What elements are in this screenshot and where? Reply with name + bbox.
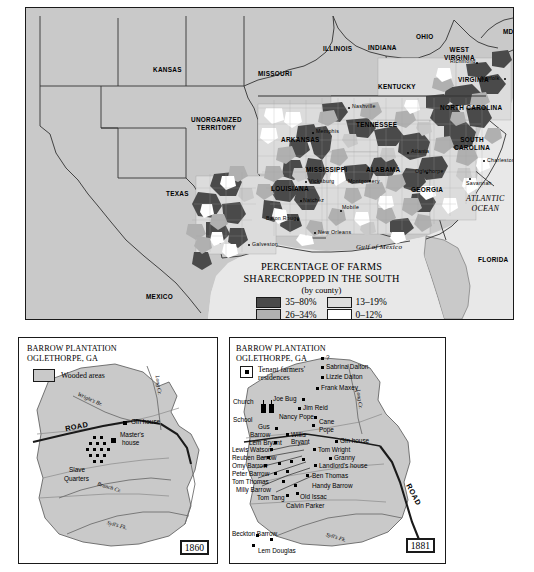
tenant-label: Sabrina Dalton xyxy=(326,363,368,370)
state-label-mexico: MEXICO xyxy=(146,293,173,300)
legend-subtitle: (by county) xyxy=(214,285,429,295)
legend-title-line2: SHARECROPPED IN THE SOUTH xyxy=(214,273,429,285)
legend-swatch-26-34 xyxy=(256,309,281,320)
state-label-north-carolina: NORTH CAROLINA xyxy=(440,104,502,112)
state-label-indiana: INDIANA xyxy=(368,44,397,51)
church-steeple-icon xyxy=(263,400,265,405)
legend-entry: 35–80% xyxy=(256,297,316,308)
legend-label-0-12: 0–12% xyxy=(356,310,383,320)
tenant-label: Granny xyxy=(334,454,355,461)
barrow-plantation-1881-panel: BARROW PLANTATION OGLETHORPE, GA Tenant … xyxy=(229,337,446,564)
city-label-mobile: Mobile xyxy=(342,204,359,210)
legend-label-26-34: 26–34% xyxy=(285,310,316,320)
state-label-tennessee: TENNESSEE xyxy=(356,121,397,128)
state-label-georgia: GEORGIA xyxy=(411,186,443,193)
state-label-kentucky: KENTUCKY xyxy=(378,83,416,90)
city-label-new-orleans: New Orleans xyxy=(318,229,351,235)
panel-1881-title-line2: OGLETHORPE, GA xyxy=(236,354,307,363)
city-label-savannah: Savannah xyxy=(466,180,492,186)
sharecropping-choropleth-map: KANSAS MISSOURI ILLINOIS INDIANA OHIO MD… xyxy=(25,7,514,320)
state-label-florida: FLORIDA xyxy=(478,256,509,263)
tenant-label: Lizzie Dalton xyxy=(326,373,363,380)
water-label-gulf-of-mexico: Gulf of Mexico xyxy=(356,243,402,251)
state-label-arkansas: ARKANSAS xyxy=(281,136,320,143)
state-label-south-carolina: SOUTH CAROLINA xyxy=(454,136,490,151)
panel-1860-wooded-legend: Wooded areas xyxy=(33,369,105,382)
tenant-label: Tom Wright xyxy=(318,446,350,453)
tenant-label: Omy Barrow xyxy=(232,462,268,469)
tenant-residence-label: Tenant farmers'residences xyxy=(258,366,305,383)
masters-house-marker-1860 xyxy=(111,438,116,443)
panel-1881-title-line1: BARROW PLANTATION xyxy=(236,344,326,353)
tenant-label: Gus xyxy=(258,423,270,430)
tenant-label: Beckton Barrow xyxy=(232,530,277,537)
historical-figure: KANSAS MISSOURI ILLINOIS INDIANA OHIO MD… xyxy=(0,0,534,572)
legend-column-right: 13–19% 0–12% xyxy=(327,297,387,320)
legend-swatch-35-80 xyxy=(256,297,281,308)
tenant-label: Tom Thomas xyxy=(232,478,269,485)
panel-1881-tenant-legend: Tenant farmers'residences xyxy=(240,366,305,383)
tenant-label: Lem Douglas xyxy=(258,547,296,554)
state-label-unorganized-territory: UNORGANIZED TERRITORY xyxy=(191,116,242,131)
tenant-label: Jim Reid xyxy=(303,404,328,411)
tenant-label: Ben Thomas xyxy=(312,472,348,479)
tenant-label: Bryant xyxy=(291,438,309,445)
legend-swatch-13-19 xyxy=(327,297,352,308)
tenant-label: Gin house xyxy=(340,437,369,444)
state-label-maryland: MD xyxy=(503,28,514,35)
tenant-label: Milly Barrow xyxy=(236,486,271,493)
school-label-1881: School xyxy=(233,416,253,423)
state-label-mississippi: MISSISSIPPI xyxy=(306,166,347,173)
state-label-texas: TEXAS xyxy=(166,190,189,197)
school-roof-icon xyxy=(271,400,273,405)
city-label-vicksburg: Vicksburg xyxy=(309,178,334,184)
legend-swatch-0-12 xyxy=(327,309,352,320)
legend-entry: 26–34% xyxy=(256,309,316,320)
legend-entry: 13–19% xyxy=(327,297,387,308)
legend-title-line1: PERCENTAGE OF FARMS xyxy=(214,261,429,273)
masters-house-label-line2: house xyxy=(122,439,139,446)
tenant-label: Calvin Parker xyxy=(286,502,324,509)
city-label-natchez: Natchez xyxy=(303,197,324,203)
city-label-charleston: Charleston xyxy=(487,157,514,163)
year-badge-1881: 1881 xyxy=(406,538,435,553)
tenant-label: Handy Barrow xyxy=(312,482,353,489)
tenant-label: Lem Bryant xyxy=(249,439,282,446)
map-legend: PERCENTAGE OF FARMS SHARECROPPED IN THE … xyxy=(214,261,429,320)
state-label-alabama: ALABAMA xyxy=(366,166,400,173)
panel-1860-title-line1: BARROW PLANTATION xyxy=(27,344,117,353)
year-badge-1860: 1860 xyxy=(180,540,209,555)
tenant-label: Old Issac xyxy=(300,493,327,500)
state-label-ohio: OHIO xyxy=(416,33,434,40)
tenant-label: Landlord's house xyxy=(319,462,367,469)
masters-house-label-line1: Master's xyxy=(120,431,144,438)
year-badge-1881-label: 1881 xyxy=(407,539,434,552)
tenant-label: Tom Tang xyxy=(257,494,285,501)
city-label-memphis: Memphis xyxy=(316,128,339,134)
city-label-richmond: Richmond xyxy=(450,58,476,64)
city-label-atlanta: Atlanta xyxy=(411,148,429,154)
tenant-label: Nancy Pope xyxy=(279,413,314,420)
slave-quarters-label-line2: Quarters xyxy=(64,475,89,482)
slave-quarters-label-line1: Slave xyxy=(69,466,85,473)
year-badge-1860-label: 1860 xyxy=(181,541,208,554)
wooded-areas-label: Wooded areas xyxy=(61,371,105,380)
city-label-galveston: Galveston xyxy=(252,241,278,247)
gin-house-marker-1860 xyxy=(123,421,127,425)
legend-column-left: 35–80% 26–34% 20–25% xyxy=(256,297,316,320)
wooded-areas-swatch xyxy=(33,369,55,382)
tenant-label: Reuben Barrow xyxy=(232,454,276,461)
tenant-label: Barrow xyxy=(250,431,270,438)
ocean-label-atlantic: ATLANTIC OCEAN xyxy=(466,194,505,214)
church-label-1881: Church xyxy=(233,398,254,405)
tenant-label: Peter Barrow xyxy=(232,470,269,477)
city-label-nashville: Nashville xyxy=(352,103,376,109)
tenant-label: Joe Bug xyxy=(273,395,296,402)
barrow-plantation-1860-panel: BARROW PLANTATION OGLETHORPE, GA Wooded … xyxy=(18,337,218,564)
city-label-montgomery: Montgomery xyxy=(348,178,380,184)
legend-label-13-19: 13–19% xyxy=(356,297,387,307)
legend-label-35-80: 35–80% xyxy=(285,297,316,307)
panel-1860-title-line2: OGLETHORPE, GA xyxy=(27,354,98,363)
state-label-missouri: MISSOURI xyxy=(258,70,292,77)
city-label-norfolk: Norfolk xyxy=(481,75,500,81)
